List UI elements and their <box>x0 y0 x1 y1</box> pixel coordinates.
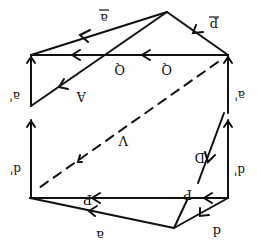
label-d-bottom: d <box>213 224 221 239</box>
label-a-bottom: a <box>96 228 104 242</box>
label-a-prime-right: a' <box>235 88 245 102</box>
arrowhead-p-bar-icon <box>193 25 203 33</box>
label-Q-left: Q <box>114 62 125 77</box>
vector-D <box>198 113 224 183</box>
label-P-right: P <box>183 187 192 202</box>
diagram-canvas: a p Q Q A a' a' V D d' d' P P a d <box>0 0 257 242</box>
vector-diagram: a p Q Q A a' a' V D d' d' P P a d <box>0 0 257 242</box>
vector-a-bar <box>31 12 167 55</box>
label-P-left: P <box>83 192 92 207</box>
label-Q-right: Q <box>161 62 172 77</box>
label-D: D <box>195 150 205 165</box>
label-V: V <box>118 133 129 148</box>
label-a-bar: a <box>100 11 108 26</box>
label-d-prime-left: d' <box>10 162 21 176</box>
label-A: A <box>76 89 87 104</box>
vector-a-bottom <box>30 198 174 228</box>
label-a-prime-left: a' <box>10 89 20 103</box>
label-d-prime-right: d' <box>234 163 245 177</box>
label-p-bar: p <box>210 18 218 33</box>
